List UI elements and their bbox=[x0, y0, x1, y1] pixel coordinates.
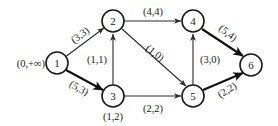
node-label-3: 3 bbox=[110, 90, 116, 102]
edge-label-3-2: (1,1) bbox=[87, 54, 108, 66]
edge-label-5-4: (3,0) bbox=[200, 54, 221, 66]
node-label-1: 1 bbox=[54, 57, 60, 69]
edge-label-1-2: (3,3) bbox=[69, 24, 93, 46]
network-flow-diagram: 1 2 3 4 5 6 (0,+∞) (3,3) (5,3) (4,4) (1,… bbox=[0, 0, 278, 126]
edge-label-3-5: (2,2) bbox=[143, 103, 164, 115]
diagram-canvas: 1 2 3 4 5 6 (0,+∞) (3,3) (5,3) (4,4) (1,… bbox=[0, 0, 278, 126]
node-annotation-3: (1,2) bbox=[103, 111, 124, 123]
edge-label-2-5: (1,0) bbox=[143, 42, 167, 64]
edge-label-2-4: (4,4) bbox=[143, 6, 164, 18]
node-label-4: 4 bbox=[190, 15, 196, 27]
source-capacity-label: (0,+∞) bbox=[17, 58, 46, 70]
node-label-2: 2 bbox=[110, 15, 116, 27]
node-label-6: 6 bbox=[248, 59, 254, 71]
node-label-5: 5 bbox=[190, 90, 196, 102]
